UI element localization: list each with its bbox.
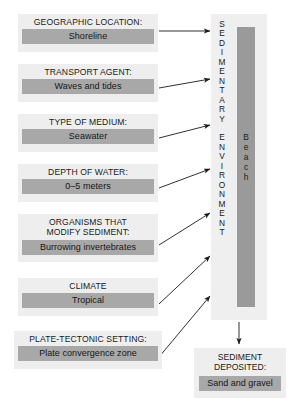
sedimentary-environment-column: S E D I M E N T A R Y E N V I R O N M E … bbox=[211, 14, 267, 320]
sediment-deposited-panel: SEDIMENT DEPOSITED: Sand and gravel bbox=[194, 348, 286, 398]
factor-value: Seawater bbox=[22, 129, 154, 144]
factor-value: Tropical bbox=[22, 293, 154, 308]
arrow-climate bbox=[159, 256, 210, 304]
arrow-depth-of-water bbox=[159, 169, 210, 188]
factor-panel-plate-tectonic-setting: PLATE-TECTONIC SETTING: Plate convergenc… bbox=[14, 331, 162, 369]
factor-label: TYPE OF MEDIUM: bbox=[22, 117, 154, 127]
factor-panel-climate: CLIMATE Tropical bbox=[18, 278, 158, 316]
sedimentary-environment-diagram: GEOGRAPHIC LOCATION: Shoreline TRANSPORT… bbox=[0, 0, 306, 410]
factor-value: Plate convergence zone bbox=[18, 346, 158, 361]
factor-panel-organisms-modify-sediment: ORGANISMS THAT MODIFY SEDIMENT: Burrowin… bbox=[18, 214, 158, 262]
factor-value: Waves and tides bbox=[22, 79, 154, 94]
factor-panel-transport-agent: TRANSPORT AGENT: Waves and tides bbox=[18, 64, 158, 102]
arrow-type-of-medium bbox=[159, 125, 210, 138]
factor-panel-geographic-location: GEOGRAPHIC LOCATION: Shoreline bbox=[18, 14, 158, 52]
beach-result-bar: B e a c h bbox=[237, 27, 255, 307]
factor-label: TRANSPORT AGENT: bbox=[22, 67, 154, 77]
factor-label: ORGANISMS THAT MODIFY SEDIMENT: bbox=[22, 217, 154, 238]
deposit-label: SEDIMENT DEPOSITED: bbox=[199, 352, 281, 373]
factor-label: DEPTH OF WATER: bbox=[22, 167, 154, 177]
arrow-organisms bbox=[159, 213, 210, 245]
factor-value: Shoreline bbox=[22, 29, 154, 44]
deposit-value: Sand and gravel bbox=[199, 376, 281, 391]
factor-label: GEOGRAPHIC LOCATION: bbox=[22, 17, 154, 27]
factor-label: PLATE-TECTONIC SETTING: bbox=[18, 334, 158, 344]
factor-value: 0–5 meters bbox=[22, 179, 154, 194]
factor-panel-depth-of-water: DEPTH OF WATER: 0–5 meters bbox=[18, 164, 158, 202]
factor-panel-type-of-medium: TYPE OF MEDIUM: Seawater bbox=[18, 114, 158, 152]
beach-label: B e a c h bbox=[237, 132, 255, 182]
arrow-transport-agent bbox=[159, 79, 210, 88]
sedimentary-environment-label: S E D I M E N T A R Y E N V I R O N M E … bbox=[211, 20, 233, 237]
factor-label: CLIMATE bbox=[22, 281, 154, 291]
factor-value: Burrowing invertebrates bbox=[22, 240, 154, 255]
